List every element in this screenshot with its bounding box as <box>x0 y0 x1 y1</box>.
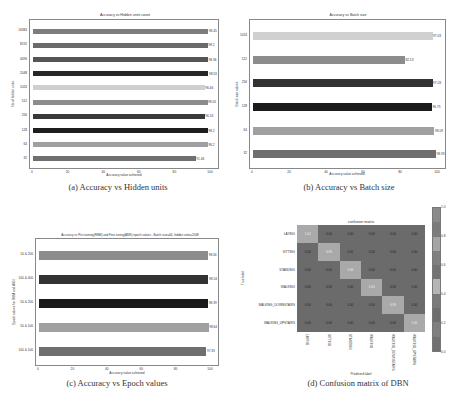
colorbar-tick-label: 0.2 <box>441 321 445 325</box>
colorbar-band <box>433 308 440 322</box>
matrix-cell: 0.00 <box>382 314 403 332</box>
x-tick-label: 20 <box>287 170 291 174</box>
bar-value-label: 98.64 <box>209 325 217 329</box>
matrix-cell: 0.00 <box>318 261 339 279</box>
y-tick-label: 256 <box>7 113 27 117</box>
y-tick-label: 50 & 200 <box>13 300 33 304</box>
colorbar-band <box>433 237 440 251</box>
matrix-cell: 0.00 <box>340 279 361 297</box>
x-tick-label: 0 <box>37 367 39 371</box>
colorbar-band <box>433 208 440 222</box>
y-tick-label: 64 <box>227 128 247 132</box>
x-tick-label: 60 <box>361 170 365 174</box>
bar <box>33 128 208 133</box>
column-label: WALKING_DOWNSTAIRS <box>391 334 395 371</box>
matrix-cell: 0.00 <box>340 314 361 332</box>
bar <box>33 85 205 90</box>
matrix-cell: 0.00 <box>340 225 361 243</box>
colorbar-band <box>433 279 440 293</box>
x-axis-label: Predicted label <box>350 372 371 376</box>
y-tick-label: 128 <box>7 128 27 132</box>
row-label: LAYING <box>235 232 295 236</box>
plot-area: 98.9398.0996.7597.0382.1397.03 <box>249 19 446 169</box>
x-tick-label: 40 <box>324 170 328 174</box>
matrix-cell: 0.00 <box>297 314 318 332</box>
matrix-cell: 0.00 <box>404 243 425 261</box>
bar-value-label: 91.46 <box>196 157 204 161</box>
matrix-cell: 0.00 <box>382 261 403 279</box>
chart-title: Accuracy vs Batch size <box>250 13 446 17</box>
matrix-cell: 0.00 <box>318 225 339 243</box>
matrix-cell: 0.00 <box>297 243 318 261</box>
bar <box>253 150 436 158</box>
matrix-cell: 0.00 <box>361 225 382 243</box>
bar <box>253 103 432 111</box>
y-tick-label: 128 <box>227 104 247 108</box>
bar-value-label: 97.33 <box>207 349 215 353</box>
colorbar-tick-label: 0.6 <box>441 263 445 267</box>
figure-caption: (d) Confusion matrix of DBN <box>307 378 408 388</box>
bar <box>39 323 209 332</box>
x-tick-label: 100 <box>207 170 212 174</box>
plot-area: 97.3398.6498.3998.5498.34 <box>35 238 219 366</box>
y-tick-label: 50 & 100 <box>13 324 33 328</box>
y-tick-label: 1024 <box>227 33 247 37</box>
bar <box>253 32 433 40</box>
bar <box>39 347 206 356</box>
matrix-cell: 1.00 <box>361 279 382 297</box>
x-axis-label: Accuracy value achieved <box>109 371 144 375</box>
y-tick-label: 10 & 200 <box>13 252 33 256</box>
bar <box>253 79 433 87</box>
column-label: SITTING <box>327 334 331 346</box>
y-tick-label: 2048 <box>7 71 27 75</box>
matrix-cell: 0.00 <box>404 225 425 243</box>
matrix-cell: 0.00 <box>318 279 339 297</box>
bar-value-label: 96.75 <box>432 105 440 109</box>
confusion-matrix-grid: 1.000.000.000.000.000.000.000.990.010.00… <box>297 225 425 332</box>
matrix-cell: 0.00 <box>361 314 382 332</box>
bar-value-label: 98.2 <box>208 143 214 147</box>
colorbar <box>432 207 441 352</box>
bar-value-label: 98.93 <box>437 152 445 156</box>
y-tick-label: 1024 <box>7 85 27 89</box>
bar <box>39 251 208 260</box>
x-tick-label: 40 <box>105 367 109 371</box>
column-label: WALKING <box>369 334 373 348</box>
bar <box>33 156 196 161</box>
y-tick-label: 512 <box>227 57 247 61</box>
colorbar-band <box>433 337 440 351</box>
chart-title: Accuracy vs Pre-training(RBM) and Fine-t… <box>35 233 225 237</box>
y-tick-label: 256 <box>227 80 247 84</box>
x-tick-label: 0 <box>251 170 253 174</box>
matrix-cell: 0.00 <box>404 261 425 279</box>
matrix-cell: 0.00 <box>382 279 403 297</box>
y-axis-label: No of hidden units <box>11 69 15 119</box>
bar <box>253 127 434 135</box>
colorbar-tick-label: 0.0 <box>441 350 445 354</box>
figure-caption: (c) Accuracy vs Epoch values <box>66 378 167 388</box>
plot-area: 91.4698.298.296.5398.0596.4698.5398.3698… <box>29 19 219 169</box>
row-label: WALKING_UPSTAIRS <box>235 321 295 325</box>
matrix-cell: 0.00 <box>382 225 403 243</box>
x-tick-label: 0 <box>31 170 33 174</box>
matrix-cell: 0.00 <box>318 296 339 314</box>
matrix-cell: 0.00 <box>404 279 425 297</box>
colorbar-tick-label: 1.0 <box>441 205 445 209</box>
matrix-cell: 0.99 <box>382 296 403 314</box>
matrix-cell: 0.00 <box>340 296 361 314</box>
bar-value-label: 98.39 <box>209 301 217 305</box>
matrix-cell: 1.00 <box>404 314 425 332</box>
colorbar-band <box>433 294 440 308</box>
confusion-matrix-dbn: confusion matrix 1.000.000.000.000.000.0… <box>230 200 459 401</box>
y-tick-label: 4096 <box>7 57 27 61</box>
y-tick-label: 100 & 100 <box>13 348 33 352</box>
bar <box>33 100 208 105</box>
bar-value-label: 98.05 <box>208 100 216 104</box>
x-tick-label: 20 <box>66 170 70 174</box>
colorbar-tick-label: 0.8 <box>441 234 445 238</box>
colorbar-tick-label: 0.4 <box>441 292 445 296</box>
row-label: WALKING <box>235 285 295 289</box>
bar <box>33 43 208 48</box>
x-tick-label: 80 <box>174 367 178 371</box>
x-tick-label: 100 <box>207 367 212 371</box>
